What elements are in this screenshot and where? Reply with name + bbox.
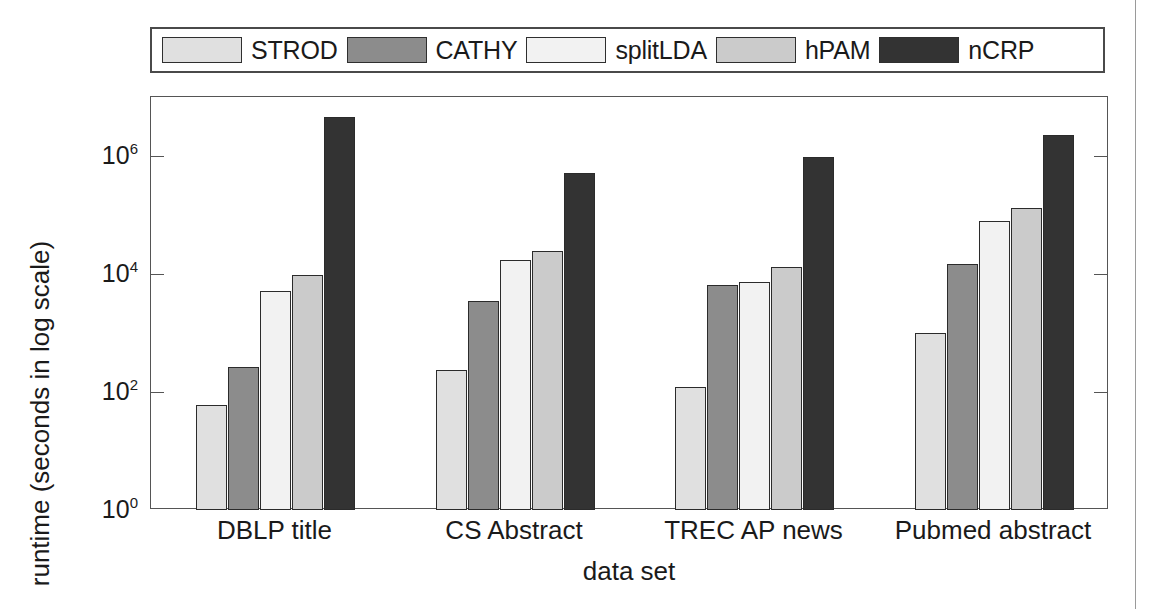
x-tick-label-cs-abstract: CS Abstract — [445, 515, 582, 546]
legend-swatch-strod — [162, 37, 242, 63]
bar-hpam-cs-abstract — [532, 251, 563, 510]
y-tick-label-1e4: 104 — [102, 258, 138, 287]
legend-entry-strod[interactable]: STROD — [162, 36, 347, 65]
y-axis-title: runtime (seconds in log scale) — [25, 204, 56, 609]
y-tick-1e6-right — [1094, 156, 1107, 157]
bar-cathy-dblp-title — [228, 367, 259, 510]
y-tick-1e2-right — [1094, 392, 1107, 393]
legend-swatch-hpam — [716, 37, 796, 63]
figure-page: STRODCATHYsplitLDAhPAMnCRP runtime (seco… — [0, 0, 1166, 609]
legend-label-cathy: CATHY — [436, 36, 518, 65]
plot-area — [150, 96, 1108, 509]
chart-legend: STRODCATHYsplitLDAhPAMnCRP — [150, 27, 1105, 73]
x-tick-label-dblp-title: DBLP title — [217, 515, 332, 546]
legend-label-strod: STROD — [251, 36, 338, 65]
bar-cathy-pubmed-abstract — [947, 264, 978, 510]
legend-entry-cathy[interactable]: CATHY — [347, 36, 527, 65]
legend-swatch-cathy — [347, 37, 427, 63]
y-tick-1e2-left — [151, 392, 164, 393]
legend-entry-ncrp[interactable]: nCRP — [879, 36, 1043, 65]
bar-splitlda-cs-abstract — [500, 260, 531, 510]
bar-cathy-trec-ap-news — [707, 285, 738, 510]
legend-entry-hpam[interactable]: hPAM — [716, 36, 879, 65]
bar-strod-cs-abstract — [436, 370, 467, 510]
legend-swatch-splitlda — [526, 37, 606, 63]
x-tick-label-trec-ap-news: TREC AP news — [664, 515, 843, 546]
y-axis-area: runtime (seconds in log scale) 100102104… — [0, 96, 148, 509]
bar-splitlda-dblp-title — [260, 291, 291, 510]
legend-label-splitlda: splitLDA — [615, 36, 707, 65]
bar-hpam-pubmed-abstract — [1011, 208, 1042, 510]
y-tick-1e4-right — [1094, 274, 1107, 275]
bar-strod-dblp-title — [196, 405, 227, 510]
bar-hpam-dblp-title — [292, 275, 323, 510]
bar-hpam-trec-ap-news — [771, 267, 802, 510]
x-axis-title: data set — [150, 556, 1108, 587]
bar-strod-pubmed-abstract — [915, 333, 946, 510]
y-tick-label-1e6: 106 — [102, 140, 138, 169]
y-tick-1e4-left — [151, 274, 164, 275]
bar-ncrp-pubmed-abstract — [1043, 135, 1074, 510]
bar-splitlda-trec-ap-news — [739, 282, 770, 510]
x-tick-label-pubmed-abstract: Pubmed abstract — [895, 515, 1092, 546]
bar-ncrp-cs-abstract — [564, 173, 595, 510]
bar-strod-trec-ap-news — [675, 387, 706, 510]
legend-entry-splitlda[interactable]: splitLDA — [526, 36, 716, 65]
y-tick-label-1e0: 100 — [102, 494, 138, 523]
y-tick-1e6-left — [151, 156, 164, 157]
bar-ncrp-trec-ap-news — [803, 157, 834, 510]
page-margin-rule — [1135, 0, 1136, 609]
bar-ncrp-dblp-title — [324, 117, 355, 510]
legend-label-hpam: hPAM — [805, 36, 870, 65]
legend-swatch-ncrp — [879, 37, 959, 63]
x-axis-tick-labels: DBLP titleCS AbstractTREC AP newsPubmed … — [150, 515, 1108, 549]
bar-splitlda-pubmed-abstract — [979, 221, 1010, 510]
y-tick-label-1e2: 102 — [102, 376, 138, 405]
legend-label-ncrp: nCRP — [968, 36, 1034, 65]
bar-cathy-cs-abstract — [468, 301, 499, 510]
